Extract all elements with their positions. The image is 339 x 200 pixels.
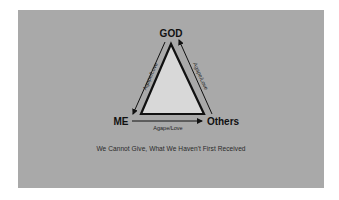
node-me-label: ME — [114, 116, 129, 127]
node-others-label: Others — [207, 116, 240, 127]
edge-bottom-label: Agape/Love — [153, 125, 182, 131]
node-god-label: GOD — [160, 28, 183, 39]
slide-panel: GOD ME Others Agape/Love Agape/Love Agap… — [18, 10, 324, 188]
diagram-caption: We Cannot Give, What We Haven't First Re… — [18, 145, 324, 152]
relationship-triangle-diagram: GOD ME Others Agape/Love Agape/Love Agap… — [18, 10, 324, 188]
